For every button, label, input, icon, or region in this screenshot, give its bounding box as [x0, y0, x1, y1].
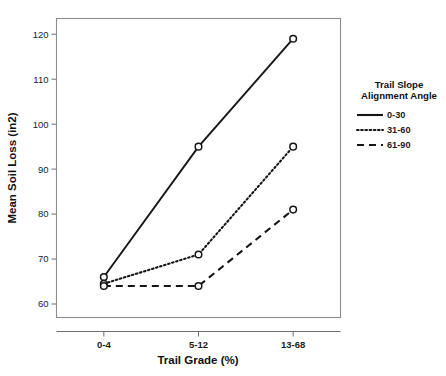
- data-point-marker: [290, 206, 297, 213]
- data-point-marker: [195, 143, 202, 150]
- y-tick-label: 90: [38, 164, 49, 175]
- legend-label-0-30: 0-30: [387, 110, 405, 120]
- x-tick-label: 5-12: [189, 339, 208, 350]
- plot-area-frame: [57, 19, 341, 318]
- data-point-marker: [101, 274, 108, 281]
- y-tick-label: 110: [33, 74, 48, 85]
- data-point-marker: [195, 283, 202, 290]
- y-tick-label: 120: [33, 29, 49, 40]
- y-tick-label: 70: [38, 253, 49, 264]
- chart-container: 60708090100110120 0-45-1213-68 Trail Gra…: [0, 0, 446, 376]
- data-point-marker: [290, 35, 297, 42]
- data-point-marker: [195, 251, 202, 258]
- line-chart: 60708090100110120 0-45-1213-68 Trail Gra…: [0, 0, 446, 376]
- x-tick-label: 13-68: [281, 339, 305, 350]
- legend-title-line-2: Alignment Angle: [361, 90, 437, 101]
- y-tick-label: 80: [38, 208, 49, 219]
- x-axis-title: Trail Grade (%): [157, 354, 238, 366]
- y-tick-label: 100: [33, 119, 49, 130]
- legend-title-line-1: Trail Slope: [375, 79, 424, 90]
- legend-label-31-60: 31-60: [387, 125, 411, 135]
- data-point-marker: [101, 283, 108, 290]
- x-tick-label: 0-4: [97, 339, 111, 350]
- legend-label-61-90: 61-90: [387, 140, 411, 150]
- data-point-marker: [290, 143, 297, 150]
- y-tick-label: 60: [38, 298, 49, 309]
- y-axis-title: Mean Soil Loss (in2): [6, 112, 18, 223]
